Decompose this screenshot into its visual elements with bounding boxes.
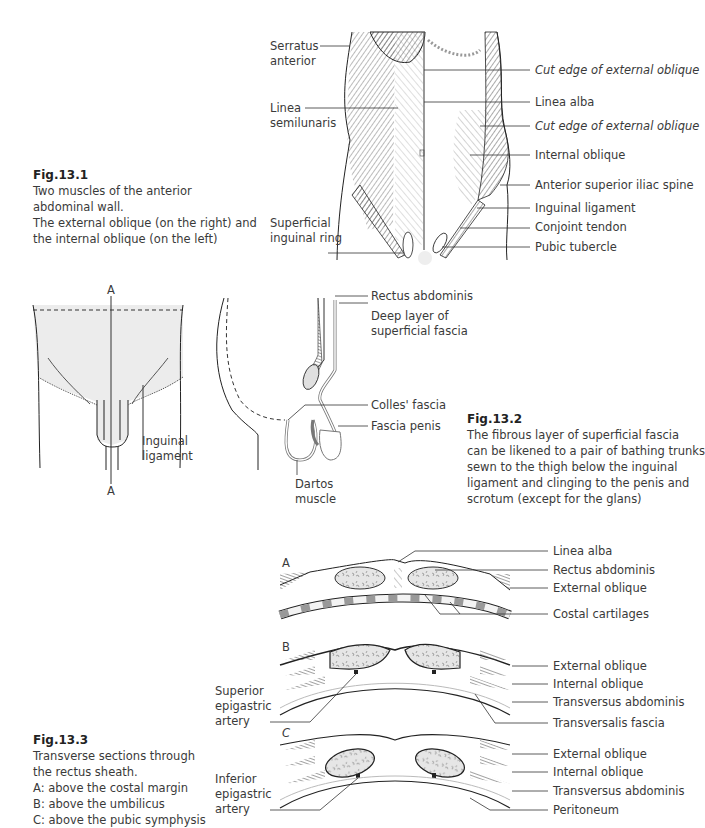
label-c-transversus: Transversus abdominis [553, 784, 684, 799]
label-linea-alba: Linea alba [535, 95, 594, 110]
label-dartos-muscle: Dartosmuscle [295, 477, 336, 507]
label-a-linea-alba: Linea alba [553, 544, 612, 559]
label-a-costal-cartilages: Costal cartilages [553, 607, 649, 622]
fig1-torso-drawing [337, 32, 510, 265]
fig1-title: Fig.13.1 [33, 167, 257, 183]
label-b-transversus: Transversus abdominis [553, 695, 684, 710]
label-superior-epigastric-artery: Superiorepigastricartery [215, 684, 272, 729]
label-linea-semilunaris: Lineasemilunaris [270, 101, 336, 131]
label-inferior-epigastric-artery: Inferiorepigastricartery [215, 772, 272, 817]
label-asis: Anterior superior iliac spine [535, 178, 694, 193]
marker-section-a: A [282, 556, 290, 571]
label-fascia-penis: Fascia penis [371, 419, 441, 434]
label-internal-oblique: Internal oblique [535, 148, 625, 163]
label-front-inguinal-ligament: Inguinalligament [142, 434, 193, 464]
fig3-title: Fig.13.3 [33, 732, 206, 748]
label-c-peritoneum: Peritoneum [553, 803, 619, 818]
label-pubic-tubercle: Pubic tubercle [535, 240, 617, 255]
fig3-caption: Fig.13.3 Transverse sections through the… [33, 732, 206, 828]
label-deep-layer: Deep layer ofsuperficial fascia [371, 297, 468, 339]
label-a-external-oblique: External oblique [553, 581, 647, 596]
label-c-external-oblique: External oblique [553, 747, 647, 762]
fig3-leader-lines [270, 551, 548, 810]
fig1-caption: Fig.13.1 Two muscles of the anterior abd… [33, 167, 257, 247]
label-inguinal-ligament: Inguinal ligament [535, 201, 635, 216]
label-colles-fascia: Colles' fascia [371, 398, 446, 413]
label-b-transversalis-fascia: Transversalis fascia [553, 716, 665, 731]
fig3-section-a-drawing [280, 560, 510, 615]
fig3-section-c-drawing [280, 735, 510, 808]
label-b-external-oblique: External oblique [553, 659, 647, 674]
marker-a-top: A [107, 283, 115, 298]
label-c-internal-oblique: Internal oblique [553, 765, 643, 780]
label-cut-edge-2: Cut edge of external oblique [535, 119, 699, 134]
label-a-rectus: Rectus abdominis [553, 563, 655, 578]
label-cut-edge-1: Cut edge of external oblique [535, 63, 699, 78]
label-superficial-inguinal-ring: Superficialinguinal ring [270, 216, 342, 246]
label-serratus-anterior: Serratusanterior [270, 39, 318, 69]
label-b-internal-oblique: Internal oblique [553, 677, 643, 692]
label-conjoint-tendon: Conjoint tendon [535, 220, 627, 235]
fig2-caption: Fig.13.2 The fibrous layer of superficia… [467, 411, 705, 507]
marker-a-bottom: A [107, 484, 115, 499]
fig2-side-drawing [217, 296, 368, 475]
marker-section-c: C [282, 726, 290, 741]
marker-section-b: B [282, 640, 290, 655]
fig2-title: Fig.13.2 [467, 411, 705, 427]
fig3-section-b-drawing [280, 644, 510, 715]
